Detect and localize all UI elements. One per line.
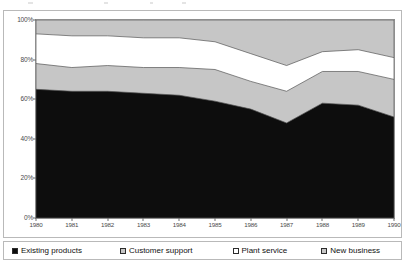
chart-legend: Existing products Customer support Plant…	[3, 241, 402, 260]
x-axis-tick-mark	[394, 218, 395, 221]
x-axis-tick-mark	[322, 218, 323, 221]
chart-frame: 0%20%40%60%80%100% 198019811982198319841…	[3, 10, 402, 238]
legend-item-existing-products[interactable]: Existing products	[12, 246, 82, 255]
legend-swatch-new-business	[321, 248, 327, 254]
x-axis-tick-label: 1990	[388, 222, 401, 228]
x-axis-tick-mark	[215, 218, 216, 221]
y-axis-tick-label: 80%	[21, 56, 33, 63]
x-axis-tick-mark	[143, 218, 144, 221]
y-axis-tick-mark	[33, 59, 36, 60]
x-axis-tick-mark	[286, 218, 287, 221]
x-axis-tick-mark	[358, 218, 359, 221]
legend-item-plant-service[interactable]: Plant service	[233, 246, 288, 255]
area-series-existing-products	[36, 89, 394, 218]
y-axis-tick-label: 100%	[17, 17, 33, 24]
x-axis-tick-label: 1980	[30, 222, 43, 228]
y-axis-tick-mark	[33, 99, 36, 100]
x-axis-tick-label: 1989	[352, 222, 365, 228]
legend-swatch-customer-support	[120, 248, 126, 254]
y-axis-tick-mark	[33, 138, 36, 139]
x-axis-tick-label: 1985	[209, 222, 222, 228]
x-axis-tick-mark	[36, 218, 37, 221]
x-axis-tick-label: 1981	[65, 222, 78, 228]
legend-swatch-existing-products	[12, 248, 18, 254]
x-axis-tick-label: 1983	[137, 222, 150, 228]
y-axis-tick-mark	[33, 20, 36, 21]
legend-label-existing-products: Existing products	[21, 246, 82, 255]
x-axis-tick-label: 1982	[101, 222, 114, 228]
legend-item-new-business[interactable]: New business	[321, 246, 380, 255]
legend-label-plant-service: Plant service	[242, 246, 288, 255]
x-axis-tick-mark	[250, 218, 251, 221]
x-axis-tick-label: 1986	[244, 222, 257, 228]
legend-label-customer-support: Customer support	[129, 246, 193, 255]
legend-item-customer-support[interactable]: Customer support	[120, 246, 193, 255]
y-axis-tick-mark	[33, 178, 36, 179]
x-axis-tick-label: 1984	[173, 222, 186, 228]
y-axis-tick-label: 60%	[21, 96, 33, 103]
x-axis-tick-mark	[179, 218, 180, 221]
legend-swatch-plant-service	[233, 248, 239, 254]
x-axis-tick-mark	[107, 218, 108, 221]
x-axis-tick-label: 1988	[316, 222, 329, 228]
x-axis-tick-mark	[71, 218, 72, 221]
top-edge-artifacts	[0, 0, 406, 9]
y-axis-tick-label: 20%	[21, 175, 33, 182]
plot-area[interactable]: 0%20%40%60%80%100% 198019811982198319841…	[35, 19, 395, 219]
stacked-area-plot	[36, 20, 394, 218]
x-axis-tick-label: 1987	[280, 222, 293, 228]
y-axis-tick-label: 40%	[21, 136, 33, 143]
legend-label-new-business: New business	[330, 246, 380, 255]
